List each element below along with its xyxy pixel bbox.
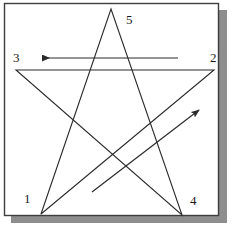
star-stroke-order-figure: 3 2 5 1 4 [0, 0, 232, 227]
vertex-label-4: 4 [190, 194, 197, 207]
vertex-label-5: 5 [126, 13, 133, 26]
panel-frame [5, 4, 219, 216]
figure-canvas [0, 0, 232, 227]
vertex-label-2: 2 [210, 51, 217, 64]
vertex-label-3: 3 [13, 51, 20, 64]
vertex-label-1: 1 [24, 192, 31, 205]
